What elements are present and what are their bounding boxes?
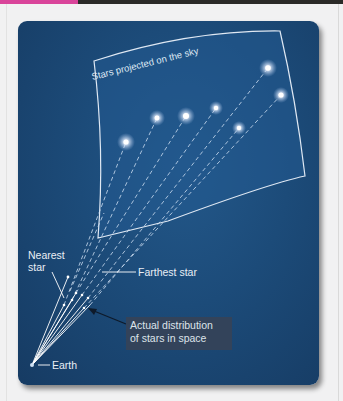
earth-label: Earth [52, 359, 77, 371]
callout-line1: Actual distribution [130, 319, 228, 332]
arrowhead-icon [88, 308, 97, 315]
callout-arrow [94, 311, 126, 324]
farthest-star-label: Farthest star [138, 266, 197, 278]
sight-lines [32, 277, 90, 365]
callout-line2: of stars in space [130, 332, 228, 345]
actual-distribution-callout: Actual distribution of stars in space [126, 317, 232, 350]
nearest-star-label-line2: star [28, 261, 46, 273]
earth-dot [30, 363, 34, 367]
nearest-star-label-line1: Nearest [28, 249, 65, 261]
leader-lines [38, 272, 136, 365]
